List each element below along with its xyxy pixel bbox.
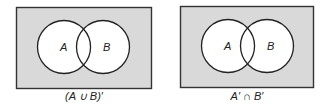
- venn-diagram-union-complement: A B (A ∪ B)′: [0, 0, 164, 111]
- diagram-caption: (A ∪ B)′: [16, 90, 152, 103]
- venn-diagram-intersection-of-complements: A B A′ ∩ B′: [164, 0, 328, 111]
- set-b-label: B: [103, 41, 110, 53]
- set-a-label: A: [223, 40, 231, 52]
- set-b-label: B: [267, 40, 274, 52]
- set-a-label: A: [59, 41, 67, 53]
- diagram-caption: A′ ∩ B′: [179, 90, 315, 102]
